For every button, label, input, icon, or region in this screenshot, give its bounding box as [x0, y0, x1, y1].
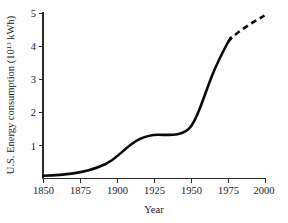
x-tick-label-1875: 1875: [70, 185, 91, 196]
x-tick-label-1900: 1900: [107, 185, 128, 196]
x-tick-label-2000: 2000: [254, 185, 275, 196]
x-tick-label-1950: 1950: [181, 185, 202, 196]
y-axis-title-tail: kWh): [5, 15, 17, 42]
energy-consumption-chart-figure: 1 2 3 4 5 1850 1875 1900 1925 1950 1975 …: [0, 0, 288, 223]
x-tick-label-1925: 1925: [144, 185, 165, 196]
chart-canvas: 1 2 3 4 5 1850 1875 1900 1925 1950 1975 …: [0, 0, 288, 223]
x-tick-label-1975: 1975: [218, 185, 239, 196]
y-tick-label-4: 4: [31, 41, 37, 52]
y-tick-label-1: 1: [31, 141, 36, 152]
y-axis-title-main: U.S. Energy consumption (10: [5, 49, 17, 174]
y-tick-label-2: 2: [31, 107, 36, 118]
x-tick-label-1850: 1850: [33, 185, 54, 196]
y-axis-title: U.S. Energy consumption (1013 kWh): [5, 15, 18, 174]
y-tick-label-3: 3: [31, 74, 36, 85]
x-tick-labels: 1850 1875 1900 1925 1950 1975 2000: [33, 185, 275, 196]
x-axis-title: Year: [144, 204, 164, 215]
y-tick-label-5: 5: [31, 8, 36, 19]
